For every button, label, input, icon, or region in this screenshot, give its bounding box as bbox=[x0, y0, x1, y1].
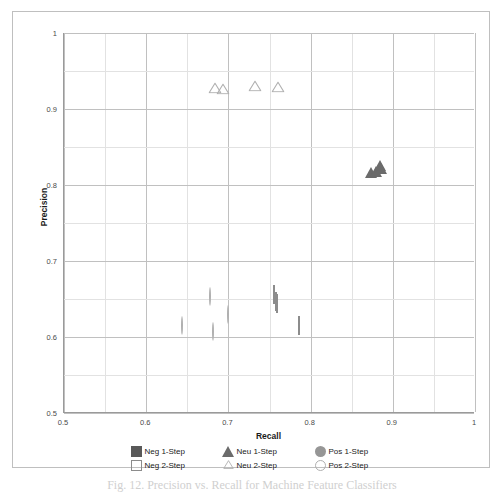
data-point bbox=[375, 146, 387, 164]
chart-legend: Neg 1-StepNeu 1-StepPos 1-StepNeg 2-Step… bbox=[63, 446, 474, 471]
x-axis-tick-label: 0.9 bbox=[387, 418, 397, 427]
marker-circle-open-icon bbox=[181, 316, 183, 335]
marker-triangle-filled-icon bbox=[222, 446, 234, 457]
legend-marker bbox=[223, 446, 234, 457]
legend-item[interactable]: Neu 1-Step bbox=[223, 446, 315, 457]
data-point bbox=[271, 81, 284, 92]
x-axis-tick-label: 1 bbox=[472, 418, 476, 427]
y-axis-tick-label: 0.6 bbox=[21, 333, 57, 342]
figure-caption: Fig. 12. Precision vs. Recall for Machin… bbox=[0, 478, 504, 492]
legend-marker bbox=[131, 446, 142, 457]
legend-item[interactable]: Neg 1-Step bbox=[131, 446, 223, 457]
marker-triangle-filled-icon bbox=[375, 146, 387, 174]
plot-area bbox=[63, 33, 474, 413]
marker-triangle-open-icon bbox=[248, 81, 261, 92]
marker-square-open-icon bbox=[298, 316, 300, 335]
marker-triangle-open-icon bbox=[271, 81, 284, 92]
marker-triangle-open-icon bbox=[217, 84, 230, 95]
data-point bbox=[276, 295, 278, 313]
x-axis-tick-label: 0.5 bbox=[58, 418, 68, 427]
legend-item[interactable]: Neg 2-Step bbox=[131, 460, 223, 471]
legend-label: Neg 2-Step bbox=[145, 461, 185, 470]
marker-triangle-open-icon bbox=[223, 460, 234, 471]
legend-marker bbox=[223, 460, 234, 471]
marker-circle-open-icon bbox=[212, 322, 214, 341]
legend-marker bbox=[315, 460, 326, 471]
marker-circle-open-icon bbox=[315, 460, 326, 471]
legend-marker bbox=[315, 446, 326, 457]
figure-container: 0.50.60.70.80.91 0.50.60.70.80.91 Precis… bbox=[0, 0, 504, 492]
gridline-vertical bbox=[475, 33, 476, 412]
legend-item[interactable]: Pos 2-Step bbox=[315, 460, 407, 471]
legend-label: Neu 2-Step bbox=[237, 461, 277, 470]
y-axis-tick-label: 0.9 bbox=[21, 105, 57, 114]
marker-square-filled-icon bbox=[131, 446, 142, 457]
marker-circle-open-icon bbox=[227, 305, 229, 324]
legend-marker bbox=[131, 460, 142, 471]
legend-row: Neg 2-StepNeu 2-StepPos 2-Step bbox=[131, 460, 407, 471]
y-axis-tick-label: 1 bbox=[21, 29, 57, 38]
data-point bbox=[248, 81, 261, 92]
chart-frame: 0.50.60.70.80.91 0.50.60.70.80.91 Precis… bbox=[12, 11, 490, 468]
data-point bbox=[217, 84, 230, 95]
marker-square-open-icon bbox=[131, 460, 142, 471]
data-point bbox=[209, 288, 211, 306]
legend-label: Neu 1-Step bbox=[237, 447, 277, 456]
marker-circle-filled-icon bbox=[315, 446, 326, 457]
marker-square-open-icon bbox=[276, 294, 278, 313]
marker-circle-open-icon bbox=[209, 287, 211, 306]
y-axis-tick-label: 0.7 bbox=[21, 257, 57, 266]
x-axis-title: Recall bbox=[63, 431, 474, 441]
y-axis-tick-label: 0.5 bbox=[21, 409, 57, 418]
x-axis-tick-label: 0.7 bbox=[222, 418, 232, 427]
y-axis-title: Precision bbox=[39, 167, 49, 247]
legend-label: Neg 1-Step bbox=[145, 447, 185, 456]
x-axis-tick-label: 0.8 bbox=[304, 418, 314, 427]
data-point bbox=[227, 306, 229, 324]
legend-item[interactable]: Pos 1-Step bbox=[315, 446, 407, 457]
legend-label: Pos 2-Step bbox=[329, 461, 369, 470]
legend-row: Neg 1-StepNeu 1-StepPos 1-Step bbox=[131, 446, 407, 457]
legend-label: Pos 1-Step bbox=[329, 447, 369, 456]
legend-item[interactable]: Neu 2-Step bbox=[223, 460, 315, 471]
data-point bbox=[212, 323, 214, 341]
data-points-layer bbox=[64, 33, 474, 412]
x-axis-tick-label: 0.6 bbox=[140, 418, 150, 427]
gridline-horizontal bbox=[64, 413, 474, 414]
data-point bbox=[298, 317, 300, 335]
data-point bbox=[181, 317, 183, 335]
